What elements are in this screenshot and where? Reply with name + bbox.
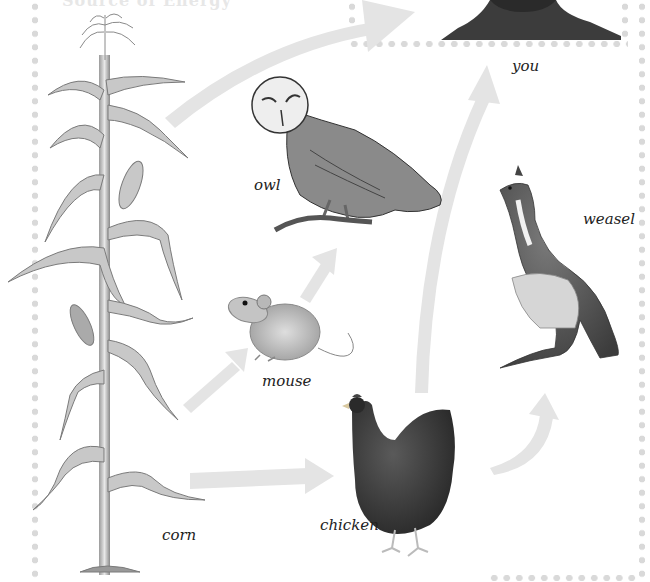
food-web-diagram: Source of Energy <box>0 0 650 582</box>
arrow-corn-to-chicken <box>190 458 334 494</box>
food-web-illustration <box>0 0 650 582</box>
owl-illustration <box>252 77 441 230</box>
label-corn: corn <box>162 526 196 544</box>
label-mouse: mouse <box>262 372 312 390</box>
arrow-chicken-to-weasel <box>490 393 559 475</box>
label-weasel: weasel <box>583 210 635 228</box>
arrow-chicken-to-you <box>415 65 500 393</box>
weasel-illustration <box>500 165 618 368</box>
label-owl: owl <box>254 176 281 194</box>
corn-illustration <box>8 14 205 575</box>
label-you: you <box>512 57 539 75</box>
arrow-mouse-to-owl <box>300 248 337 303</box>
arrow-corn-to-mouse <box>183 348 248 413</box>
label-chicken: chicken <box>320 516 379 534</box>
you-photo <box>441 0 621 40</box>
